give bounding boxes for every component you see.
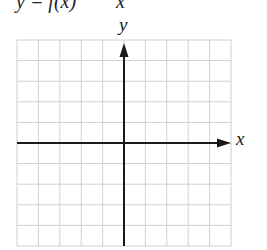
x-axis-arrow-icon bbox=[217, 139, 231, 148]
coordinate-grid bbox=[0, 0, 267, 250]
x-axis-label: x bbox=[236, 128, 244, 150]
y-axis-arrow-icon bbox=[120, 43, 129, 57]
y-axis-label: y bbox=[119, 14, 127, 36]
